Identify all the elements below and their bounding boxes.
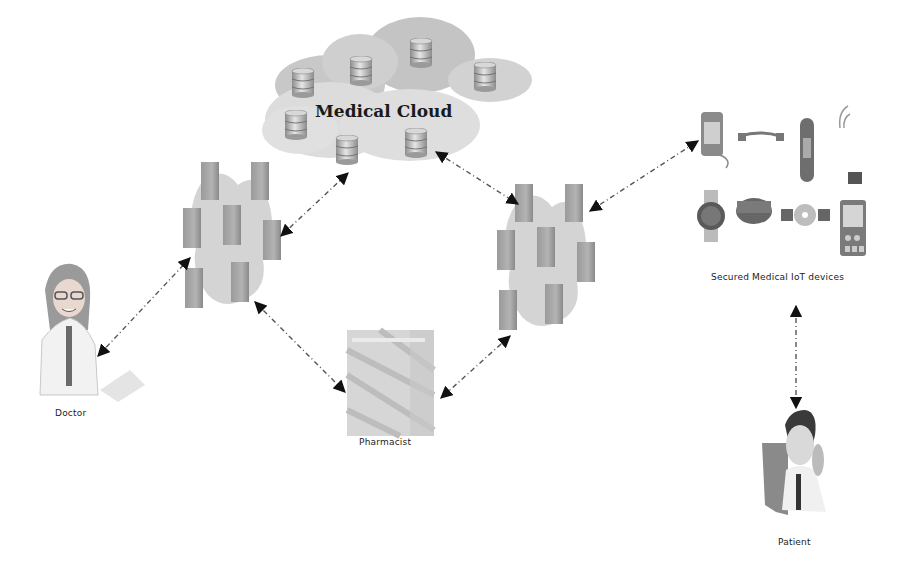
iot-devices-icon	[697, 106, 866, 256]
cloud-label: Medical Cloud	[315, 101, 452, 121]
edge-server-right-pharmacist	[441, 336, 510, 398]
doctor-icon	[40, 264, 145, 402]
doctor-label: Doctor	[55, 408, 86, 418]
edge-server-right-iot	[590, 141, 698, 211]
edge-server-left-cloud	[281, 173, 348, 236]
medical-cloud	[262, 17, 532, 165]
edge-doctor-server-left	[98, 258, 190, 356]
patient-icon	[762, 410, 826, 515]
pharmacy-icon	[347, 330, 434, 436]
edge-server-left-pharmacist	[255, 302, 345, 392]
server-cluster-left-icon	[183, 162, 281, 308]
patient-label: Patient	[778, 537, 811, 547]
iot-devices-label: Secured Medical IoT devices	[711, 272, 844, 282]
edge-cloud-server-right	[436, 152, 518, 204]
pharmacist-label: Pharmacist	[359, 437, 411, 447]
medical-iot-diagram	[0, 0, 909, 575]
server-cluster-right-icon	[497, 184, 595, 330]
